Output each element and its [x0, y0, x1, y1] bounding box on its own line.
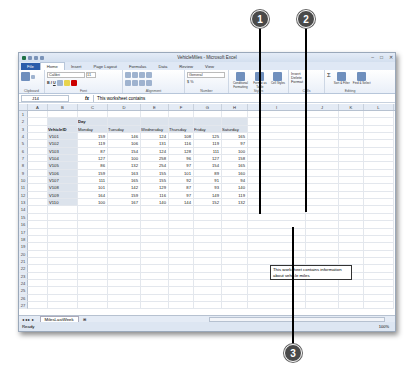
cell[interactable] [364, 126, 394, 133]
cell[interactable]: V102 [48, 140, 78, 147]
font-color-icon[interactable] [71, 80, 77, 86]
cell[interactable] [339, 243, 364, 250]
cell[interactable]: 91 [194, 177, 222, 184]
cell[interactable]: 132 [222, 199, 248, 206]
cell[interactable] [169, 258, 194, 265]
cell[interactable] [248, 118, 306, 125]
cell[interactable] [194, 111, 222, 118]
cell[interactable] [108, 206, 141, 213]
cell[interactable] [169, 236, 194, 243]
font-size-select[interactable]: 11 [86, 72, 96, 78]
cell[interactable] [364, 221, 394, 228]
row-header[interactable]: 9 [19, 170, 28, 177]
cell[interactable] [339, 126, 364, 133]
cell[interactable] [364, 229, 394, 236]
cell[interactable] [78, 221, 108, 228]
row-header[interactable]: 11 [19, 184, 28, 191]
cell[interactable] [306, 251, 339, 258]
cell[interactable]: 254 [141, 162, 169, 169]
cell[interactable] [248, 155, 306, 162]
cell[interactable] [78, 280, 108, 287]
cell[interactable]: 116 [141, 192, 169, 199]
column-header[interactable]: L [364, 104, 394, 110]
align-center-icon[interactable] [132, 80, 138, 86]
cell[interactable] [248, 206, 306, 213]
cell[interactable]: 92 [169, 177, 194, 184]
insert-function-icon[interactable]: fx [85, 96, 89, 101]
cell[interactable] [28, 126, 48, 133]
merge-center-icon[interactable] [146, 80, 152, 86]
cell[interactable] [108, 214, 141, 221]
sheet-nav-icons[interactable]: ◂ ◂ ▸ ▸ [19, 317, 34, 322]
row-header[interactable]: 4 [19, 133, 28, 140]
comment-box[interactable]: This worksheet contains information abou… [270, 265, 352, 280]
cell[interactable] [28, 251, 48, 258]
cell[interactable] [248, 148, 306, 155]
cell[interactable] [108, 111, 141, 118]
cell[interactable] [339, 133, 364, 140]
cell[interactable]: 125 [194, 133, 222, 140]
row-header[interactable]: 10 [19, 177, 28, 184]
column-header[interactable]: H [222, 104, 248, 110]
cell[interactable] [48, 221, 78, 228]
cell[interactable] [108, 273, 141, 280]
cell[interactable] [78, 265, 108, 272]
cell[interactable] [364, 258, 394, 265]
cell[interactable] [28, 170, 48, 177]
align-right-icon[interactable] [139, 80, 145, 86]
cell[interactable] [339, 236, 364, 243]
cell[interactable]: VehicleID [48, 126, 78, 133]
cell[interactable] [78, 287, 108, 294]
cell[interactable] [141, 280, 169, 287]
cell[interactable] [169, 251, 194, 258]
cell[interactable] [339, 229, 364, 236]
cell[interactable]: 165 [222, 133, 248, 140]
cell[interactable] [306, 221, 339, 228]
cell[interactable] [248, 177, 306, 184]
cell[interactable] [306, 118, 339, 125]
cell[interactable] [194, 258, 222, 265]
cell[interactable] [78, 258, 108, 265]
cell[interactable]: 87 [169, 184, 194, 191]
cell[interactable]: V104 [48, 155, 78, 162]
cell[interactable] [194, 243, 222, 250]
cell[interactable] [222, 236, 248, 243]
cell[interactable] [248, 302, 306, 309]
cell[interactable] [108, 229, 141, 236]
cell[interactable] [169, 302, 194, 309]
cell[interactable] [194, 214, 222, 221]
cell[interactable] [306, 111, 339, 118]
cell[interactable] [222, 229, 248, 236]
cell[interactable] [28, 155, 48, 162]
cell[interactable]: 111 [194, 148, 222, 155]
column-header[interactable]: G [194, 104, 222, 110]
row-header[interactable]: 15 [19, 214, 28, 221]
cell[interactable] [306, 177, 339, 184]
cell[interactable] [141, 214, 169, 221]
cell[interactable] [141, 229, 169, 236]
cell[interactable]: 164 [78, 192, 108, 199]
row-header[interactable]: 12 [19, 192, 28, 199]
cell[interactable] [364, 199, 394, 206]
cell[interactable]: 87 [78, 148, 108, 155]
row-header[interactable]: 14 [19, 206, 28, 213]
cell[interactable] [28, 280, 48, 287]
column-header[interactable]: A [28, 104, 48, 110]
cell[interactable] [169, 295, 194, 302]
cell[interactable] [306, 236, 339, 243]
cell[interactable] [78, 111, 108, 118]
cell[interactable] [222, 295, 248, 302]
cell[interactable] [169, 265, 194, 272]
cell[interactable] [248, 111, 306, 118]
cell[interactable] [339, 192, 364, 199]
cell[interactable]: 119 [194, 140, 222, 147]
new-sheet-icon[interactable]: ⊞ [83, 317, 86, 322]
minimize-button[interactable]: – [371, 54, 374, 60]
cell[interactable] [248, 140, 306, 147]
cell[interactable]: 159 [78, 170, 108, 177]
column-header[interactable]: K [339, 104, 364, 110]
cell[interactable]: 132 [108, 162, 141, 169]
cell[interactable] [108, 251, 141, 258]
cell[interactable] [306, 229, 339, 236]
cell[interactable] [28, 236, 48, 243]
